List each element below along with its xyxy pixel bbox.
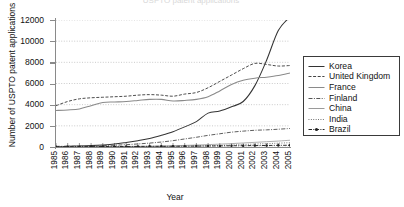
x-tick-label: 1992: [132, 151, 143, 169]
series-marker-brazil: [265, 144, 268, 147]
legend-item-finland[interactable]: Finland: [308, 93, 399, 104]
legend-label: Finland: [329, 94, 357, 103]
legend-item-france[interactable]: France: [308, 82, 399, 93]
series-marker-brazil: [242, 144, 245, 147]
x-tick-label: 2003: [261, 151, 272, 169]
plot-area: [56, 20, 290, 147]
y-tick-mark: [50, 126, 55, 127]
x-tick-label: 1997: [191, 151, 202, 169]
series-marker-brazil: [289, 144, 290, 147]
legend-item-india[interactable]: India: [308, 114, 399, 125]
series-marker-brazil: [230, 145, 233, 147]
y-tick-mark: [50, 62, 55, 63]
series-marker-brazil: [277, 144, 280, 147]
series-marker-brazil: [207, 145, 210, 147]
x-tick-label: 1985: [51, 151, 62, 169]
x-tick-label: 1993: [144, 151, 155, 169]
y-tick-mark: [50, 84, 55, 85]
x-tick-label: 1986: [62, 151, 73, 169]
x-tick-label: 2004: [273, 151, 284, 169]
legend-item-united-kingdom[interactable]: United Kingdom: [308, 72, 399, 83]
legend-line-sample-icon: [308, 62, 325, 71]
series-marker-brazil: [66, 145, 69, 147]
series-marker-brazil: [254, 144, 257, 147]
y-tick-label: 4000: [0, 100, 44, 109]
series-marker-brazil: [148, 145, 151, 147]
y-tick-label: 10000: [0, 37, 44, 46]
x-tick-label: 1994: [156, 151, 167, 169]
legend-label: United Kingdom: [329, 72, 390, 81]
legend-label: India: [329, 115, 348, 124]
legend-label: Brazil: [329, 125, 351, 134]
series-marker-brazil: [56, 145, 57, 147]
x-tick-label: 1998: [203, 151, 214, 169]
x-tick-label: 2000: [226, 151, 237, 169]
chart-root: USPTO patent applications Number of USPT…: [0, 0, 404, 207]
legend-item-korea[interactable]: Korea: [308, 61, 399, 72]
x-tick-label: 1987: [74, 151, 85, 169]
x-tick-label: 1995: [168, 151, 179, 169]
y-tick-mark: [50, 105, 55, 106]
series-marker-brazil: [219, 145, 222, 147]
x-tick-label: 1999: [214, 151, 225, 169]
chart-legend: KoreaUnited KingdomFranceFinlandChinaInd…: [303, 56, 400, 136]
series-lines: [56, 20, 290, 147]
y-tick-mark: [50, 41, 55, 42]
legend-line-sample-icon: [308, 94, 325, 103]
y-tick-label: 6000: [0, 79, 44, 88]
x-tick-label: 1996: [179, 151, 190, 169]
legend-item-brazil[interactable]: Brazil: [308, 125, 399, 136]
x-tick-label: 1990: [109, 151, 120, 169]
x-tick-label: 2005: [285, 151, 296, 169]
y-tick-label: 12000: [0, 16, 44, 25]
x-tick-label: 1988: [86, 151, 97, 169]
legend-label: France: [329, 83, 356, 92]
x-tick-label: 1989: [97, 151, 108, 169]
series-marker-brazil: [160, 145, 163, 147]
y-tick-mark: [50, 20, 55, 21]
chart-title: USPTO patent applications: [96, 0, 286, 5]
series-line-united-kingdom: [56, 63, 290, 106]
x-axis-line: [55, 147, 291, 148]
y-tick-label: 8000: [0, 58, 44, 67]
legend-label: Korea: [329, 62, 352, 71]
legend-line-sample-icon: [308, 72, 325, 81]
series-marker-brazil: [125, 145, 128, 147]
legend-item-china[interactable]: China: [308, 103, 399, 114]
legend-label: China: [329, 104, 351, 113]
y-tick-mark: [50, 147, 55, 148]
legend-line-sample-icon: [308, 83, 325, 92]
legend-line-sample-icon: [308, 104, 325, 113]
legend-line-sample-icon: [308, 115, 325, 124]
legend-line-sample-icon: [308, 125, 325, 134]
y-tick-label: 2000: [0, 122, 44, 131]
series-marker-brazil: [137, 145, 140, 147]
y-tick-label: 0: [0, 143, 44, 152]
x-axis-label: Year: [140, 192, 210, 202]
x-tick-label: 2002: [249, 151, 260, 169]
